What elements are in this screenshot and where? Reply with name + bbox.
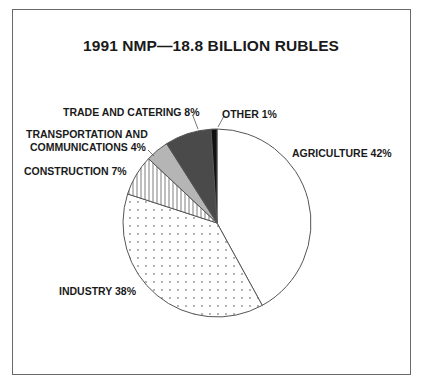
label-transport-line1: TRANSPORTATION AND xyxy=(26,128,148,141)
pie-chart xyxy=(0,0,422,389)
label-construction: CONSTRUCTION 7% xyxy=(24,165,127,178)
label-other: OTHER 1% xyxy=(222,108,277,121)
transport-leader-line xyxy=(148,150,154,156)
label-transport-line2: COMMUNICATIONS 4% xyxy=(30,141,146,154)
label-trade: TRADE AND CATERING 8% xyxy=(63,106,200,119)
label-industry: INDUSTRY 38% xyxy=(59,285,136,298)
label-agriculture: AGRICULTURE 42% xyxy=(292,147,392,160)
